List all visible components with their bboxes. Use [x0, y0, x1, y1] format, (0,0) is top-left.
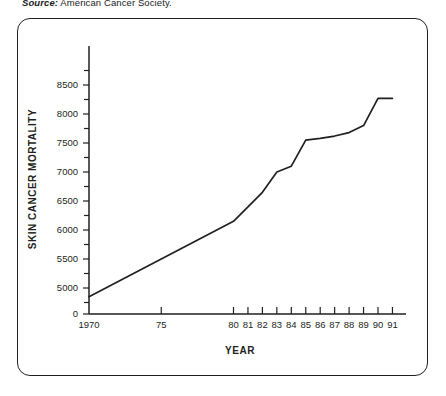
- y-tick-group: [83, 85, 89, 314]
- x-tick-label: 86: [315, 319, 326, 330]
- x-tick-label: 85: [300, 319, 311, 330]
- y-tick-label: 0: [73, 308, 78, 319]
- x-tick-label: 81: [243, 319, 254, 330]
- x-tick-label-group: 197075808182838485868788899091: [78, 319, 397, 330]
- y-tick-label: 6500: [57, 195, 78, 206]
- x-tick-label: 83: [272, 319, 283, 330]
- source-label: Source:: [22, 0, 58, 8]
- x-tick-label: 89: [358, 319, 369, 330]
- y-tick-label: 8000: [57, 108, 78, 119]
- chart-card: 850080007500700065006000550050000 197075…: [17, 18, 428, 376]
- x-tick-label: 1970: [78, 319, 99, 330]
- x-tick-label: 80: [228, 319, 239, 330]
- y-tick-label: 7000: [57, 166, 78, 177]
- y-tick-label: 5000: [57, 282, 78, 293]
- x-tick-group: [161, 307, 392, 314]
- x-axis-title: YEAR: [225, 345, 255, 356]
- source-value: American Cancer Society.: [58, 0, 172, 8]
- y-tick-label-group: 850080007500700065006000550050000: [57, 79, 78, 319]
- y-tick-label: 6000: [57, 224, 78, 235]
- x-tick-label: 90: [373, 319, 384, 330]
- y-tick-label: 5500: [57, 253, 78, 264]
- x-tick-label: 91: [387, 319, 398, 330]
- x-tick-label: 84: [286, 319, 297, 330]
- y-axis-title: SKIN CANCER MORTALITY: [27, 109, 38, 249]
- x-tick-label: 87: [329, 319, 340, 330]
- mortality-data-line: [89, 98, 392, 296]
- x-tick-label: 82: [257, 319, 268, 330]
- x-tick-label: 88: [344, 319, 355, 330]
- x-tick-label: 75: [156, 319, 167, 330]
- y-tick-label: 7500: [57, 137, 78, 148]
- source-note: Source: American Cancer Society.: [22, 0, 172, 8]
- skin-cancer-mortality-line-chart: 850080007500700065006000550050000 197075…: [18, 19, 427, 375]
- y-tick-label: 8500: [57, 79, 78, 90]
